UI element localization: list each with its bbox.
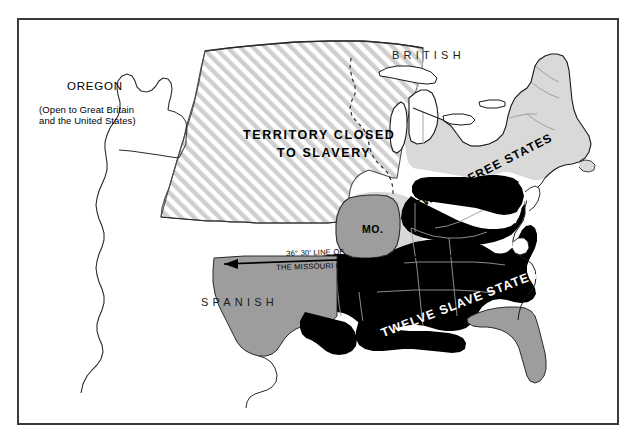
region-florida-territory — [467, 307, 546, 383]
map-frame-border: BRITISH SPANISH OREGON (Open to Great Br… — [17, 18, 619, 425]
region-missouri — [336, 195, 400, 258]
region-slave-states-upper-east — [401, 175, 525, 245]
map-graphic — [19, 20, 617, 423]
pacific-coast-outline — [81, 74, 187, 393]
cape-cod-detail — [579, 160, 595, 172]
map-figure: BRITISH SPANISH OREGON (Open to Great Br… — [0, 0, 637, 441]
